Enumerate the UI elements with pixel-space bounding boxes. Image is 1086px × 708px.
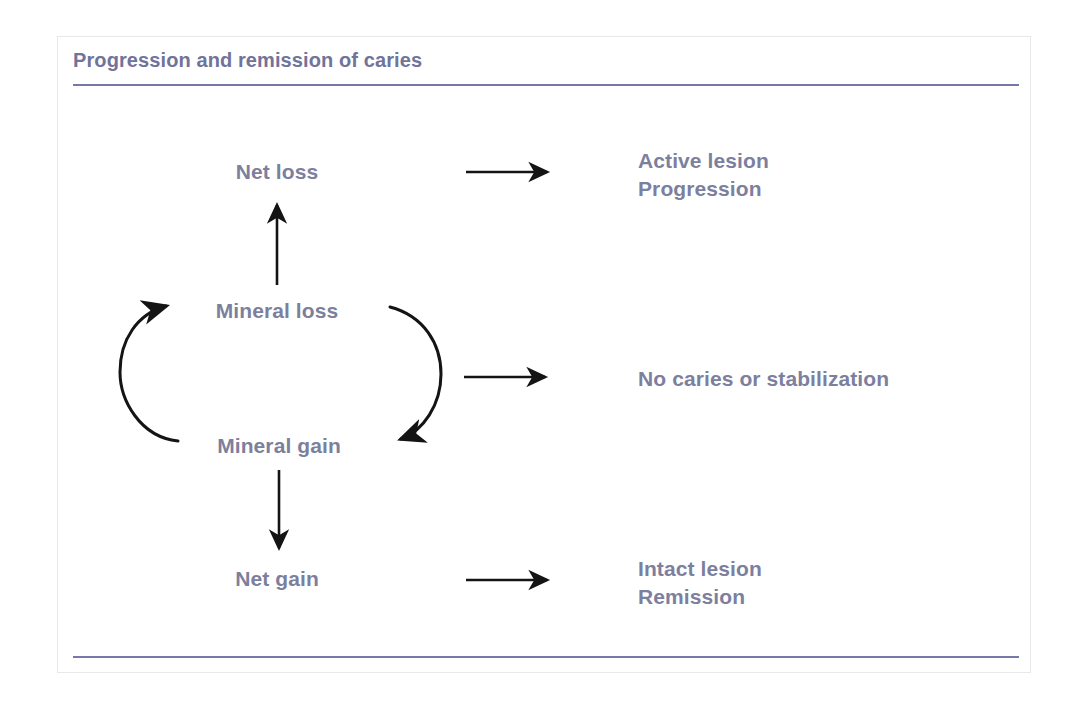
- node-mineral-loss: Mineral loss: [216, 299, 339, 323]
- figure-frame: [57, 36, 1031, 673]
- node-net-gain: Net gain: [235, 567, 319, 591]
- figure-root: Progression and remission of caries Net …: [0, 0, 1086, 708]
- outcome-intact-lesion-remission: Intact lesion Remission: [638, 555, 762, 612]
- node-net-loss: Net loss: [236, 160, 319, 184]
- figure-divider-bottom: [73, 656, 1019, 658]
- outcome-active-lesion-progression: Active lesion Progression: [638, 147, 769, 204]
- node-mineral-gain: Mineral gain: [217, 434, 341, 458]
- figure-title: Progression and remission of caries: [73, 49, 422, 72]
- title-divider-top: [73, 84, 1019, 86]
- outcome-no-caries-or-stabilization: No caries or stabilization: [638, 365, 889, 393]
